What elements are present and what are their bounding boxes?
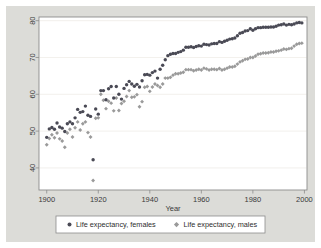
data-point-circle <box>109 85 112 88</box>
x-tick-label: 1940 <box>141 195 158 204</box>
legend-label-females: Life expectancy, females <box>76 220 156 229</box>
data-point-circle <box>135 83 138 86</box>
data-point-circle <box>182 48 185 51</box>
data-point-circle <box>148 73 151 76</box>
y-tick-label: 40 <box>29 164 38 172</box>
legend-circle-marker-icon <box>68 223 72 227</box>
data-point-circle <box>73 116 76 119</box>
data-point-circle <box>164 58 167 61</box>
data-point-circle <box>156 76 159 79</box>
data-point-circle <box>89 115 92 118</box>
y-tick-label: 60 <box>29 90 38 98</box>
plot-panel <box>39 17 307 190</box>
data-point-circle <box>233 36 236 39</box>
data-point-circle <box>53 128 56 131</box>
chart-figure: 4050607080 190019201940196019802000 Year… <box>0 0 321 248</box>
data-point-circle <box>102 89 105 92</box>
data-point-circle <box>94 107 97 110</box>
data-point-circle <box>122 87 125 90</box>
y-axis-ticks: 4050607080 <box>29 17 40 173</box>
data-point-circle <box>91 158 94 161</box>
x-tick-label: 1900 <box>38 195 55 204</box>
data-point-circle <box>104 98 107 101</box>
data-point-circle <box>117 93 120 96</box>
data-point-circle <box>107 87 110 90</box>
data-point-circle <box>115 85 118 88</box>
x-tick-label: 2000 <box>296 195 313 204</box>
scatter-plot: 4050607080 190019201940196019802000 Year… <box>0 0 321 248</box>
data-point-circle <box>45 136 48 139</box>
y-tick-label: 80 <box>29 17 38 25</box>
y-tick-label: 70 <box>29 53 38 61</box>
x-tick-label: 1960 <box>193 195 210 204</box>
data-point-circle <box>120 97 123 100</box>
data-point-circle <box>81 110 84 113</box>
data-point-circle <box>140 79 143 82</box>
data-point-circle <box>127 80 130 83</box>
x-tick-label: 1920 <box>90 195 107 204</box>
data-point-circle <box>63 130 66 133</box>
x-tick-label: 1980 <box>245 195 262 204</box>
data-point-circle <box>130 82 133 85</box>
data-point-circle <box>138 85 141 88</box>
x-axis-ticks: 190019201940196019802000 <box>38 190 312 204</box>
data-point-circle <box>97 112 100 115</box>
data-point-circle <box>71 122 74 125</box>
data-point-circle <box>161 64 164 67</box>
data-point-circle <box>60 126 63 129</box>
data-point-circle <box>84 104 87 107</box>
data-point-circle <box>55 121 58 124</box>
legend-label-males: Life expectancy, males <box>184 220 258 229</box>
data-point-circle <box>76 108 79 111</box>
data-point-circle <box>300 21 303 24</box>
y-tick-label: 50 <box>29 127 38 135</box>
data-point-circle <box>158 68 161 71</box>
data-point-circle <box>236 34 239 37</box>
data-point-circle <box>112 96 115 99</box>
data-point-circle <box>125 83 128 86</box>
x-axis-title: Year <box>165 204 181 213</box>
data-point-circle <box>153 69 156 72</box>
